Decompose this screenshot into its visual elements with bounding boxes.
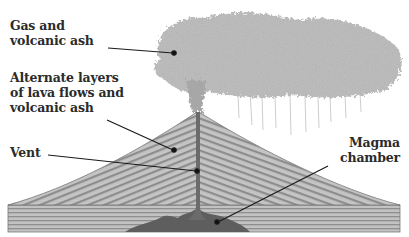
label-gas-and-volcanic-ash: Gas and volcanic ash [10,18,94,48]
label-alternate-layers: Alternate layers of lava flows and volca… [10,70,124,115]
label-line: Gas and [10,18,94,33]
label-line: volcanic ash [10,100,124,115]
leader-dot-gas-ash [172,51,176,55]
leader-dot-layers [172,148,176,152]
volcano-diagram: Gas and volcanic ash Alternate layers of… [0,0,409,237]
leader-dot-vent [195,169,199,173]
label-vent: Vent [10,145,41,160]
label-line: chamber [338,150,400,165]
label-line: of lava flows and [10,85,124,100]
label-magma-chamber: Magma chamber [338,135,400,165]
label-line: volcanic ash [10,33,94,48]
label-line: Magma [338,135,400,150]
label-line: Vent [10,145,41,160]
label-line: Alternate layers [10,70,124,85]
leader-dot-magma [215,220,219,224]
